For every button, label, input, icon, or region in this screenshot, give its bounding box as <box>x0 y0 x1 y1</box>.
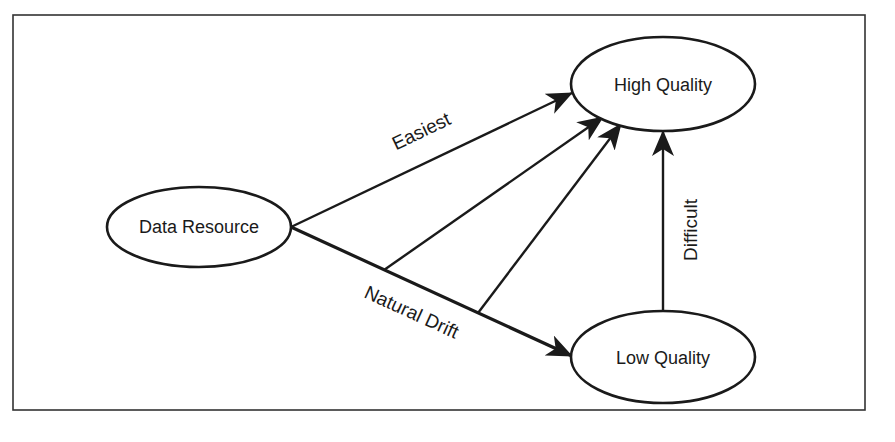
node-data-resource-label: Data Resource <box>139 217 259 237</box>
edge-easiest-label: Easiest <box>389 108 455 154</box>
edge-difficult-label: Difficult <box>680 198 701 261</box>
data-quality-diagram: Data Resource High Quality Low Quality E… <box>0 0 895 442</box>
node-high-quality-label: High Quality <box>614 75 712 95</box>
edge-drift-branch-2-arrow <box>478 124 621 313</box>
node-low-quality: Low Quality <box>571 311 755 403</box>
node-data-resource: Data Resource <box>107 187 291 267</box>
node-low-quality-label: Low Quality <box>616 348 710 368</box>
edge-natural-drift-label: Natural Drift <box>361 282 463 343</box>
edge-easiest-arrow <box>291 93 572 227</box>
node-high-quality: High Quality <box>571 37 755 131</box>
